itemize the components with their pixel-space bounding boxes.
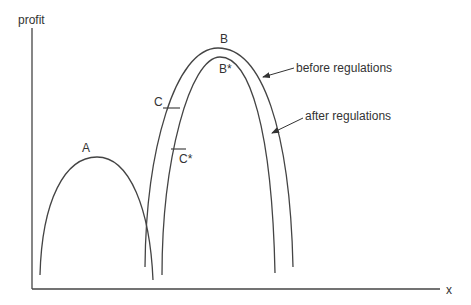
label-c: C <box>154 95 163 109</box>
profit-diagram: profit x A B B* C C* before regulations … <box>0 0 471 305</box>
label-b-star: B* <box>219 62 232 76</box>
label-c-star: C* <box>179 152 193 166</box>
y-axis-label: profit <box>18 13 45 27</box>
label-before-regulations: before regulations <box>296 61 392 75</box>
x-axis-label: x <box>446 283 452 297</box>
arrow-before <box>263 68 294 77</box>
curve-after-regulations <box>162 57 275 275</box>
curve-a <box>40 157 153 280</box>
label-a: A <box>82 141 90 155</box>
label-after-regulations: after regulations <box>305 109 391 123</box>
curve-before-regulations <box>145 48 293 267</box>
label-b: B <box>220 32 228 46</box>
